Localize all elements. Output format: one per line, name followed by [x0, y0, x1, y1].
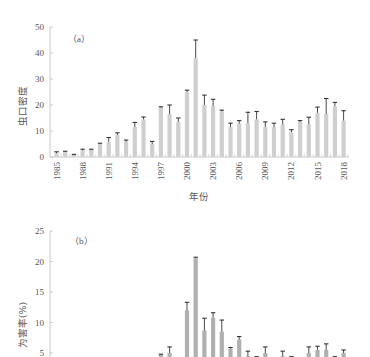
bar — [324, 350, 328, 357]
panel-label: （a） — [68, 34, 90, 44]
bar — [298, 122, 302, 157]
y-tick-label: 50 — [35, 22, 45, 32]
y-tick-label: 20 — [35, 100, 45, 110]
bar — [263, 127, 267, 157]
y-tick-label: 40 — [35, 48, 45, 58]
bar — [176, 122, 180, 157]
y-axis-title: 为害率(%) — [17, 302, 28, 348]
bar — [98, 144, 102, 157]
bar — [89, 150, 93, 157]
bar — [315, 350, 319, 357]
y-tick-label: 25 — [35, 226, 45, 236]
bar — [194, 58, 198, 157]
y-tick-label: 10 — [35, 126, 45, 136]
bar — [220, 332, 224, 357]
bar — [307, 125, 311, 158]
bar — [246, 123, 250, 157]
bar — [237, 124, 241, 157]
bar — [124, 142, 128, 157]
x-tick-label: 2015 — [313, 162, 323, 181]
x-tick-label: 2003 — [208, 162, 218, 181]
bar — [281, 125, 285, 158]
bar — [63, 152, 67, 157]
chart-panel-b: 510152025为害率(%)（b） — [17, 226, 346, 357]
x-tick-label: 1994 — [130, 162, 140, 181]
bar — [107, 142, 111, 157]
x-tick-label: 2000 — [182, 162, 192, 181]
y-tick-label: 0 — [40, 152, 45, 162]
figure: 0102030405019851988199119941997200020032… — [0, 0, 370, 357]
x-tick-label: 2012 — [286, 162, 296, 180]
x-axis-title: 年份 — [189, 191, 209, 202]
x-tick-label: 1988 — [78, 162, 88, 181]
bar — [81, 151, 85, 158]
bar — [255, 119, 259, 157]
x-tick-label: 1997 — [156, 162, 166, 181]
bar — [307, 353, 311, 357]
bar — [220, 112, 224, 158]
bar — [115, 135, 119, 157]
bar — [54, 153, 58, 157]
bar — [228, 127, 232, 157]
bar — [72, 155, 76, 157]
bar — [168, 114, 172, 157]
bar — [342, 121, 346, 157]
bar — [211, 106, 215, 157]
bar — [324, 114, 328, 157]
bar — [141, 119, 145, 157]
bar — [133, 127, 137, 157]
y-tick-label: 30 — [35, 74, 45, 84]
bar — [272, 127, 276, 157]
bar — [333, 106, 337, 157]
bar — [185, 310, 189, 357]
bar — [194, 258, 198, 357]
y-axis-title: 虫口密度 — [17, 86, 28, 126]
y-tick-label: 5 — [40, 348, 45, 357]
bar — [263, 353, 267, 357]
bar — [185, 92, 189, 157]
bar — [150, 144, 154, 157]
y-tick-label: 15 — [35, 287, 45, 297]
bar — [237, 340, 241, 357]
x-tick-label: 2009 — [260, 162, 270, 181]
x-tick-label: 1985 — [52, 162, 62, 181]
bar — [315, 113, 319, 157]
x-tick-label: 1991 — [104, 162, 114, 180]
bar — [289, 132, 293, 157]
bar — [211, 318, 215, 357]
bar — [168, 353, 172, 357]
panel-label: （b） — [70, 236, 93, 246]
chart-panel-a: 0102030405019851988199119941997200020032… — [17, 22, 349, 202]
bar — [202, 330, 206, 357]
bar — [228, 349, 232, 357]
bar — [342, 353, 346, 357]
y-tick-label: 10 — [35, 318, 45, 328]
x-tick-label: 2006 — [234, 162, 244, 181]
bar — [159, 108, 163, 157]
y-tick-label: 20 — [35, 257, 45, 267]
x-tick-label: 2018 — [339, 162, 349, 181]
bar — [202, 105, 206, 157]
